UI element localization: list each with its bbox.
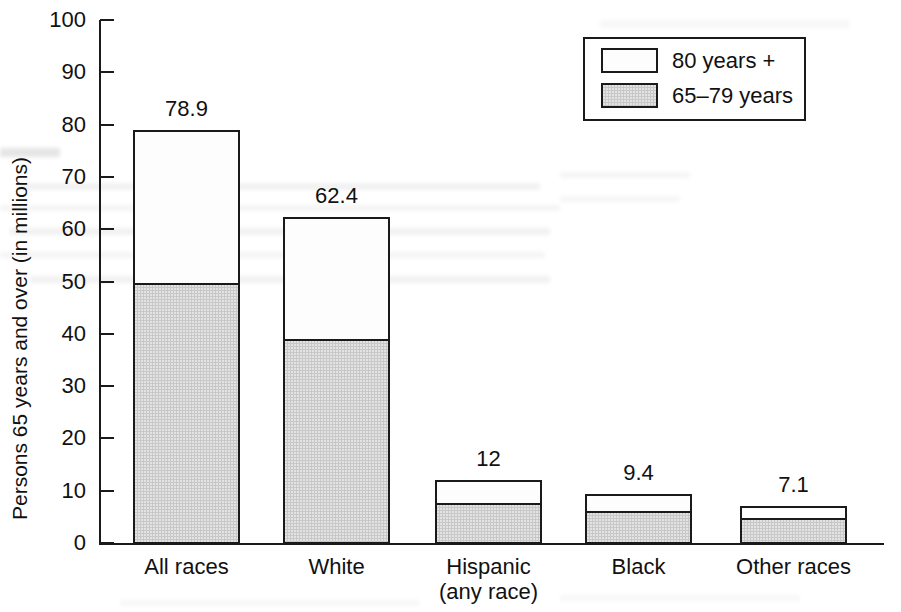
x-axis-category-label: Other races xyxy=(700,554,887,579)
y-axis-tick xyxy=(100,19,114,21)
y-axis-line xyxy=(99,20,101,545)
bar-segment-80-plus xyxy=(435,480,542,505)
legend-item-65-79: 65–79 years xyxy=(601,83,793,108)
scan-artifact xyxy=(0,252,545,258)
bar-segment-65-79 xyxy=(740,518,847,544)
y-axis-tick xyxy=(100,333,114,335)
bar-value-label: 78.9 xyxy=(133,98,240,120)
scan-artifact xyxy=(560,196,680,202)
x-axis-line xyxy=(99,543,884,545)
scan-artifact xyxy=(0,205,560,211)
y-axis-tick xyxy=(100,71,114,73)
y-axis-tick-label: 60 xyxy=(16,218,86,240)
bar-segment-65-79 xyxy=(585,511,692,544)
scan-artifact xyxy=(10,228,550,235)
y-axis-tick-label: 0 xyxy=(16,532,86,554)
y-axis-tick-label: 20 xyxy=(16,427,86,449)
y-axis-tick-label: 80 xyxy=(16,114,86,136)
y-axis-tick xyxy=(100,385,114,387)
scan-artifact xyxy=(560,172,690,178)
bar-value-label: 12 xyxy=(435,448,542,470)
y-axis-tick-label: 30 xyxy=(16,375,86,397)
bar-segment-65-79 xyxy=(283,339,390,544)
y-axis-tick xyxy=(100,124,114,126)
bar-value-label: 9.4 xyxy=(585,462,692,484)
y-axis-tick xyxy=(100,281,114,283)
bar-value-label: 62.4 xyxy=(283,185,390,207)
y-axis-tick xyxy=(100,228,114,230)
legend: 80 years + 65–79 years xyxy=(583,37,806,121)
scan-artifact xyxy=(0,148,60,157)
legend-label-65-79: 65–79 years xyxy=(672,85,793,107)
y-axis-tick-label: 100 xyxy=(16,9,86,31)
y-axis-tick-label: 10 xyxy=(16,480,86,502)
legend-item-80-plus: 80 years + xyxy=(601,48,775,73)
bar-segment-65-79 xyxy=(435,503,542,544)
y-axis-tick-label: 40 xyxy=(16,323,86,345)
y-axis-tick xyxy=(100,437,114,439)
bar-segment-80-plus xyxy=(133,130,240,284)
bar-value-label: 7.1 xyxy=(740,474,847,496)
y-axis-tick-label: 70 xyxy=(16,166,86,188)
legend-label-80-plus: 80 years + xyxy=(672,50,775,72)
y-axis-tick-label: 50 xyxy=(16,271,86,293)
scan-artifact xyxy=(120,600,420,606)
bar-segment-65-79 xyxy=(133,283,240,544)
legend-swatch-80-plus xyxy=(601,48,658,73)
scan-artifact xyxy=(20,183,540,190)
scan-artifact xyxy=(600,20,850,28)
y-axis-tick xyxy=(100,176,114,178)
y-axis-tick xyxy=(100,490,114,492)
scan-artifact xyxy=(560,595,800,601)
legend-swatch-65-79 xyxy=(601,83,658,108)
y-axis-tick-label: 90 xyxy=(16,61,86,83)
bar-segment-80-plus xyxy=(283,217,390,341)
chart-page: Persons 65 years and over (in millions) … xyxy=(0,0,901,612)
